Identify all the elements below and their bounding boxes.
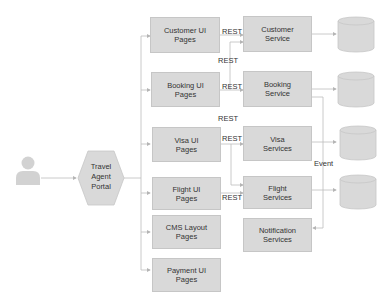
box-label: Booking UI	[167, 81, 204, 90]
box-label: Services	[263, 144, 292, 153]
user-actor-icon	[16, 157, 40, 186]
flight-ui-pages: Flight UIPages	[152, 177, 221, 210]
box-label: Booking	[264, 80, 291, 89]
rest-label: REST	[218, 114, 238, 123]
travel-agent-portal: Travel Agent Portal	[78, 151, 124, 205]
rest-label: REST	[222, 82, 242, 91]
customer-service: CustomerService	[243, 16, 312, 52]
visa-ui-pages: Visa UIPages	[152, 127, 221, 162]
box-label: Pages	[176, 232, 197, 241]
booking-service: BookingService	[243, 71, 312, 107]
rest-label: REST	[222, 134, 242, 143]
database-icons	[338, 17, 376, 209]
rest-label: REST	[222, 193, 242, 202]
db-connectors	[312, 34, 336, 228]
portal-label-2: Agent	[91, 172, 112, 181]
box-label: Visa UI	[174, 136, 198, 145]
box-label: Services	[263, 193, 292, 202]
portal-label-3: Portal	[91, 182, 111, 191]
customer-db-icon	[338, 17, 374, 52]
box-label: Pages	[176, 275, 197, 284]
box-label: CMS Layout	[166, 223, 207, 232]
box-label: Service	[265, 34, 290, 43]
event-label: Event	[314, 159, 334, 168]
flight-db-icon	[340, 175, 376, 209]
notification-services: NotificationServices	[243, 218, 312, 252]
customer-ui-pages: Customer UIPages	[150, 17, 220, 53]
rest-label: REST	[218, 56, 238, 65]
box-label: Pages	[176, 145, 197, 154]
bus-branches	[141, 36, 150, 270]
box-label: Pages	[174, 35, 195, 44]
box-label: Visa	[270, 135, 284, 144]
box-label: Customer UI	[164, 26, 206, 35]
booking-ui-pages: Booking UIPages	[151, 72, 220, 107]
visa-db-icon	[340, 126, 376, 160]
box-label: Pages	[176, 194, 197, 203]
cms-layout-pages: CMS LayoutPages	[152, 215, 221, 249]
payment-ui-pages: Payment UIPages	[152, 258, 221, 292]
box-label: Notification	[259, 226, 296, 235]
box-label: Flight	[268, 184, 286, 193]
box-label: Services	[263, 235, 292, 244]
rest-label: REST	[222, 27, 242, 36]
box-label: Flight UI	[173, 185, 201, 194]
visa-services: VisaServices	[243, 126, 312, 161]
flight-services: FlightServices	[243, 176, 312, 209]
box-label: Pages	[175, 90, 196, 99]
box-label: Service	[265, 89, 290, 98]
box-label: Customer	[261, 25, 294, 34]
booking-db-icon	[338, 72, 374, 107]
portal-label-1: Travel	[91, 162, 112, 171]
box-label: Payment UI	[167, 266, 206, 275]
